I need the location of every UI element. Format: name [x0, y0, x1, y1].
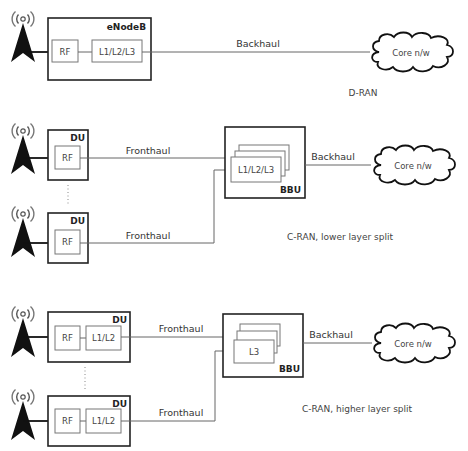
svg-text:RF: RF [62, 416, 73, 426]
fronthaul-label: Fronthaul [126, 230, 171, 241]
antenna-tower-icon [11, 307, 35, 358]
svg-text:L1/L2: L1/L2 [92, 416, 115, 426]
svg-text:L3: L3 [249, 347, 259, 357]
svg-text:L1/L2/L3: L1/L2/L3 [238, 165, 274, 175]
antenna-tower-icon [11, 124, 35, 175]
fronthaul-label: Fronthaul [159, 323, 204, 334]
fronthaul-label: Fronthaul [126, 145, 171, 156]
antenna-tower-icon [11, 390, 35, 441]
svg-text:RF: RF [62, 237, 73, 247]
section-label-d-ran: D-RAN [349, 88, 378, 98]
section-d-ran: eNodeB RF L1/L2/L3 Backhaul Core n/w D-R… [11, 12, 453, 99]
svg-text:L1/L2: L1/L2 [92, 333, 115, 343]
svg-text:DU: DU [70, 216, 85, 226]
core-nw-label: Core n/w [392, 48, 430, 58]
enodeb-label: eNodeB [107, 22, 146, 32]
svg-text:Core n/w: Core n/w [394, 339, 432, 349]
section-c-ran-higher: DU RF L1/L2 Fronthaul DU RF L1/L2 Fronth… [11, 307, 455, 447]
svg-text:RF: RF [62, 333, 73, 343]
fronthaul-label: Fronthaul [159, 407, 204, 418]
svg-text:DU: DU [70, 133, 85, 143]
section-c-ran-lower: DU RF Fronthaul DU RF Fronthaul L1/L2/L3… [11, 124, 455, 264]
backhaul-label: Backhaul [236, 38, 280, 49]
antenna-tower-icon [11, 207, 35, 258]
backhaul-label: Backhaul [311, 151, 355, 162]
antenna-tower-icon [11, 12, 35, 63]
section-label-c-ran-higher: C-RAN, higher layer split [302, 404, 413, 414]
section-label-c-ran-lower: C-RAN, lower layer split [287, 232, 393, 242]
svg-text:DU: DU [112, 399, 127, 409]
backhaul-label: Backhaul [309, 329, 353, 340]
bbu-label: BBU [280, 185, 301, 195]
svg-text:RF: RF [60, 47, 71, 57]
bbu-label: BBU [279, 364, 300, 374]
svg-text:DU: DU [112, 315, 127, 325]
svg-text:Core n/w: Core n/w [394, 161, 432, 171]
svg-text:RF: RF [62, 153, 73, 163]
svg-text:L1/L2/L3: L1/L2/L3 [99, 47, 135, 57]
